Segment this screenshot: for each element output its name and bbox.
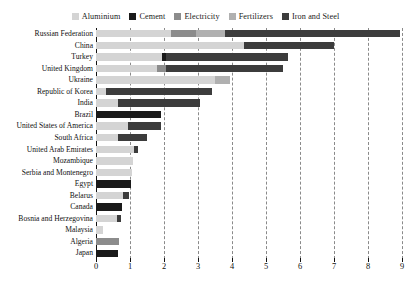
legend-item-aluminium: Aluminium	[72, 12, 121, 21]
y-label-brazil: Brazil	[0, 109, 93, 121]
bar-row	[96, 63, 402, 75]
x-tick-5: 5	[264, 262, 268, 271]
bar-row	[96, 28, 402, 40]
bar-row	[96, 224, 402, 236]
stacked-bar	[96, 134, 147, 141]
bar-segment-cement	[96, 111, 161, 118]
bar-segment-aluminium	[96, 215, 117, 222]
stacked-bar	[96, 226, 103, 233]
y-label-bosnia-and-herzegovina: Bosnia and Herzegovina	[0, 213, 93, 225]
stacked-bar	[96, 169, 132, 176]
legend-swatch-icon	[129, 13, 136, 20]
stacked-bar	[96, 111, 161, 118]
bar-segment-electricity	[171, 30, 197, 37]
bar-row	[96, 190, 402, 202]
bar-segment-iron-and-steel	[128, 122, 160, 129]
x-tick-6: 6	[298, 262, 302, 271]
bar-segment-electricity	[96, 238, 119, 245]
y-label-turkey: Turkey	[0, 51, 93, 63]
bar-segment-aluminium	[96, 134, 118, 141]
bar-segment-aluminium	[96, 42, 244, 49]
bar-row	[96, 155, 402, 167]
x-tick-mark	[96, 258, 97, 262]
bar-segment-iron-and-steel	[166, 53, 288, 60]
stacked-bar	[96, 157, 133, 164]
bar-row	[96, 201, 402, 213]
bar-segment-aluminium	[96, 169, 132, 176]
stacked-bar	[96, 192, 129, 199]
x-tick-3: 3	[196, 262, 200, 271]
y-label-russian-federation: Russian Federation	[0, 28, 93, 40]
y-label-japan: Japan	[0, 247, 93, 259]
y-label-egypt: Egypt	[0, 178, 93, 190]
y-label-india: India	[0, 97, 93, 109]
bar-segment-iron-and-steel	[106, 88, 211, 95]
bar-segment-iron-and-steel	[166, 65, 283, 72]
legend-label: Electricity	[184, 12, 219, 21]
bar-row	[96, 51, 402, 63]
bar-segment-iron-and-steel	[118, 134, 147, 141]
bar-segment-aluminium	[96, 122, 128, 129]
legend-swatch-icon	[282, 13, 289, 20]
bar-row	[96, 144, 402, 156]
bar-segment-iron-and-steel	[244, 42, 334, 49]
x-tick-9: 9	[400, 262, 404, 271]
bar-segment-aluminium	[96, 76, 215, 83]
gridline-9	[402, 28, 403, 259]
stacked-bar	[96, 250, 118, 257]
bar-segment-aluminium	[96, 192, 123, 199]
bar-segment-aluminium	[96, 53, 162, 60]
stacked-bar	[96, 146, 138, 153]
bar-segment-aluminium	[96, 157, 133, 164]
bar-row	[96, 167, 402, 179]
legend-label: Iron and Steel	[292, 12, 339, 21]
stacked-bar	[96, 122, 161, 129]
bar-row	[96, 97, 402, 109]
bar-segment-fertilizers	[215, 76, 230, 83]
x-tick-mark	[266, 258, 267, 262]
y-label-south-africa: South Africa	[0, 132, 93, 144]
bar-segment-cement	[96, 180, 131, 187]
x-tick-mark	[232, 258, 233, 262]
bar-row	[96, 74, 402, 86]
x-tick-mark	[402, 258, 403, 262]
bar-segment-iron-and-steel	[134, 146, 138, 153]
bar-row	[96, 236, 402, 248]
y-label-serbia-and-montenegro: Serbia and Montenegro	[0, 167, 93, 179]
legend-swatch-icon	[229, 13, 236, 20]
stacked-bar	[96, 215, 121, 222]
y-label-united-arab-emirates: United Arab Emirates	[0, 144, 93, 156]
legend-swatch-icon	[174, 13, 181, 20]
legend-label: Aluminium	[82, 12, 121, 21]
y-label-republic-of-korea: Republic of Korea	[0, 86, 93, 98]
x-tick-8: 8	[366, 262, 370, 271]
bar-row	[96, 132, 402, 144]
y-label-ukraine: Ukraine	[0, 74, 93, 86]
x-tick-7: 7	[332, 262, 336, 271]
bar-segment-iron-and-steel	[118, 99, 200, 106]
stacked-bar	[96, 65, 283, 72]
bar-row	[96, 120, 402, 132]
bar-rows	[96, 28, 402, 259]
bar-segment-iron-and-steel	[225, 30, 400, 37]
bar-row	[96, 109, 402, 121]
bar-segment-aluminium	[96, 30, 171, 37]
x-tick-4: 4	[230, 262, 234, 271]
stacked-bar	[96, 30, 400, 37]
stacked-bar-chart: AluminiumCementElectricityFertilizersIro…	[0, 0, 411, 288]
x-axis-tick-labels: 0123456789	[96, 262, 402, 276]
stacked-bar	[96, 203, 122, 210]
legend-label: Fertilizers	[239, 12, 273, 21]
legend-item-iron-and-steel: Iron and Steel	[282, 12, 339, 21]
x-tick-2: 2	[162, 262, 166, 271]
bar-row	[96, 247, 402, 259]
bar-segment-electricity	[157, 65, 166, 72]
x-tick-mark	[300, 258, 301, 262]
bar-segment-aluminium	[96, 146, 134, 153]
x-tick-1: 1	[128, 262, 132, 271]
x-tick-mark	[368, 258, 369, 262]
stacked-bar	[96, 42, 334, 49]
plot-area	[96, 28, 402, 259]
bar-segment-iron-and-steel	[123, 192, 130, 199]
bar-segment-cement	[96, 203, 122, 210]
